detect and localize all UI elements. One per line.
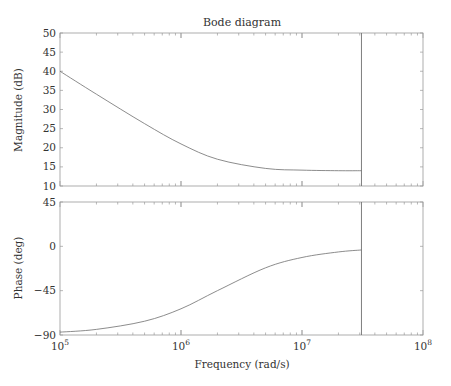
mag-ytick-label: 35 — [43, 84, 56, 96]
magnitude-panel: 101520253035404550 Magnitude (dB) — [12, 27, 423, 192]
xtick-label: 106 — [172, 338, 190, 352]
xtick-label: 107 — [293, 338, 311, 352]
phase-y-axis-label: Phase (deg) — [12, 237, 24, 300]
magnitude-plot-frame — [60, 33, 423, 186]
xtick-label: 108 — [414, 338, 432, 352]
mag-ytick-label: 25 — [43, 122, 56, 134]
mag-ytick-label: 40 — [43, 65, 56, 77]
mag-ytick-label: 15 — [43, 160, 56, 172]
bode-diagram: Bode diagram 101520253035404550 Magnitud… — [0, 0, 451, 386]
phase-ytick-label: 0 — [49, 240, 56, 252]
phase-plot-frame — [60, 202, 423, 335]
magnitude-curve — [60, 71, 361, 170]
phase-ytick-label: −90 — [34, 329, 56, 341]
phase-curve — [60, 250, 361, 332]
magnitude-y-axis-label: Magnitude (dB) — [12, 68, 24, 152]
xtick-label: 105 — [51, 338, 69, 352]
mag-ytick-label: 30 — [43, 103, 56, 115]
mag-ytick-label: 50 — [43, 27, 56, 39]
phase-ytick-label: 45 — [43, 196, 56, 208]
x-axis-label: Frequency (rad/s) — [194, 358, 289, 370]
mag-ytick-label: 45 — [43, 46, 56, 58]
mag-ytick-label: 20 — [43, 141, 56, 153]
mag-ytick-label: 10 — [43, 180, 56, 192]
chart-title: Bode diagram — [203, 16, 282, 29]
phase-panel: −90−45045 105106107108 Phase (deg) — [12, 196, 432, 353]
phase-ytick-label: −45 — [34, 284, 56, 296]
